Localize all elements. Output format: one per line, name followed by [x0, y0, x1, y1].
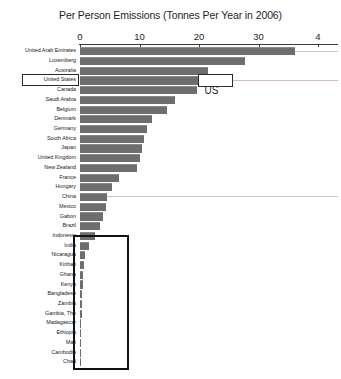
bar	[80, 86, 197, 94]
x-axis-tick-label: 30	[253, 31, 264, 42]
bar-category-label: Mexico	[59, 202, 76, 210]
bar-category-label: Saudi Arabia	[45, 95, 76, 103]
bar-row: Indonesia	[0, 231, 341, 241]
bar-category-label: Hungary	[56, 182, 76, 190]
bar-row: China	[0, 192, 341, 202]
bar-row: Hungary	[0, 182, 341, 192]
bar-row: Gabon	[0, 211, 341, 221]
bar-category-label: Gambia, The	[45, 309, 76, 317]
bar-row: United Kingdom	[0, 153, 341, 163]
bar-row: India	[0, 240, 341, 250]
bar-row: Zambia	[0, 299, 341, 309]
bar	[80, 106, 167, 114]
bar	[80, 222, 100, 230]
bar	[80, 67, 208, 75]
bar-row: Ghana	[0, 270, 341, 280]
bar-row: Kiribati	[0, 260, 341, 270]
bar	[80, 164, 137, 172]
bar	[80, 174, 119, 182]
bar-row: New Zealand	[0, 163, 341, 173]
x-axis-tick-label: 20	[194, 31, 205, 42]
us-label-highlight-box	[22, 74, 79, 86]
bar-category-label: Brazil	[63, 221, 76, 229]
x-axis-tick-label: 0	[77, 31, 82, 42]
bar-row: Germany	[0, 124, 341, 134]
bar-category-label: Bangladesh	[48, 289, 76, 297]
bar	[80, 76, 207, 84]
bar	[80, 135, 144, 143]
bar-row: Madagascar	[0, 318, 341, 328]
bar	[80, 96, 175, 104]
bar-category-label: France	[59, 173, 76, 181]
bar-row: Cambodia	[0, 347, 341, 357]
bar-category-label: Denmark	[54, 114, 76, 122]
bar-category-label: Germany	[54, 124, 76, 132]
bar	[80, 154, 140, 162]
bar-row: South Africa	[0, 133, 341, 143]
plot-area: 01020304 United Arab EmiratesLuxembergAu…	[0, 44, 341, 344]
bar-row: Canada	[0, 85, 341, 95]
bar-row: Ethiopia	[0, 328, 341, 338]
bar-category-label: United Arab Emirates	[25, 46, 76, 54]
bar-category-label: Gabon	[60, 212, 76, 220]
bar	[80, 115, 152, 123]
bar-category-label: Luxemberg	[49, 56, 76, 64]
emissions-bar-chart: Per Person Emissions (Tonnes Per Year in…	[0, 0, 341, 379]
bar	[80, 193, 107, 201]
bar-row: Chad	[0, 357, 341, 367]
x-axis-tick-label: 4	[315, 31, 320, 42]
bar-category-label: Japan	[61, 143, 76, 151]
bar-row: Mali	[0, 338, 341, 348]
bar	[80, 203, 106, 211]
low-emitters-highlight-box	[73, 235, 129, 369]
bar	[80, 212, 103, 220]
bar-row: Bangladesh	[0, 289, 341, 299]
bar-category-label: Madagascar	[46, 318, 76, 326]
bar-category-label: New Zealand	[44, 163, 76, 171]
bar-category-label: Belgium	[57, 105, 76, 113]
bar-row: Nicaragua	[0, 250, 341, 260]
bar-row: Belgium	[0, 104, 341, 114]
us-callout-label: US	[205, 85, 219, 96]
bar-row: France	[0, 172, 341, 182]
bar	[80, 144, 142, 152]
bar-row: Gambia, The	[0, 308, 341, 318]
bar	[80, 47, 295, 55]
bar	[80, 57, 245, 65]
bar-category-label: United Kingdom	[38, 153, 76, 161]
bar-category-label: South Africa	[47, 134, 76, 142]
bar-category-label: Canada	[57, 85, 76, 93]
bar-row: Kenya	[0, 279, 341, 289]
bar	[80, 183, 112, 191]
bar-category-label: China	[62, 192, 76, 200]
bar-category-label: Australia	[55, 66, 76, 74]
bar-row: Brazil	[0, 221, 341, 231]
x-axis-tick-label: 10	[134, 31, 145, 42]
bar-row: Saudi Arabia	[0, 95, 341, 105]
bar-row: Mexico	[0, 202, 341, 212]
chart-title: Per Person Emissions (Tonnes Per Year in…	[0, 9, 341, 21]
bar	[80, 125, 147, 133]
bar-row: Luxemberg	[0, 56, 341, 66]
bar-row: United Arab Emirates	[0, 46, 341, 56]
bar-row: Denmark	[0, 114, 341, 124]
bar-row: Japan	[0, 143, 341, 153]
